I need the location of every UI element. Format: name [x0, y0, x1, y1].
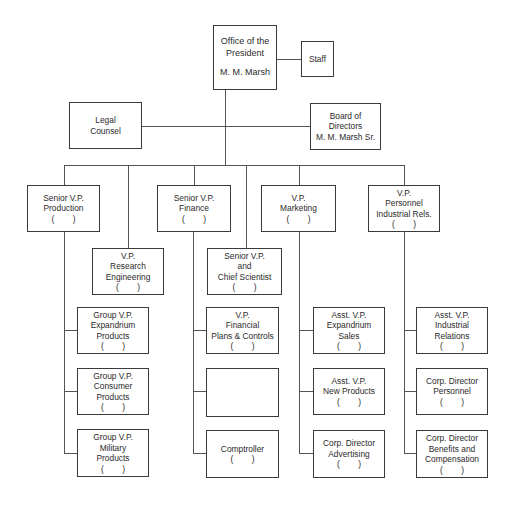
mkt-sub-3-line-2: Advertising	[328, 449, 369, 460]
president-name: M. M. Marsh	[220, 67, 270, 79]
fin-sub-1-line-1: V.P.	[236, 310, 250, 321]
research-line-2: Research	[110, 261, 146, 272]
prod-sub-3-line-1: Group V.P.	[93, 432, 133, 443]
connector-finance-sub-3	[193, 453, 206, 454]
comptroller-box: Comptroller ( )	[206, 430, 279, 478]
research-line-3: Engineering	[106, 272, 151, 283]
board-line-2: Directors	[329, 121, 363, 132]
mkt-sub-1-line-2: Expandrium	[327, 320, 372, 331]
scientist-line-2: and	[238, 261, 252, 272]
per-sub-2-line-1: Corp. Director	[426, 376, 478, 387]
mkt-sub-1-line-3: Sales	[339, 331, 360, 342]
connector-production-rail	[64, 232, 65, 454]
per-sub-3-line-2: Benefits and	[429, 444, 476, 455]
production-placeholder: ( )	[51, 214, 75, 225]
vp-personnel-box: V.P. Personnel Industrial Rels. ( )	[368, 185, 440, 232]
per-sub-2-placeholder: ( )	[440, 397, 464, 408]
per-sub-1-line-1: Asst. V.P.	[435, 310, 470, 321]
prod-sub-2-line-3: Products	[96, 392, 129, 403]
prod-sub-2-line-2: Consumer	[94, 381, 133, 392]
connector-drop-production	[64, 165, 65, 185]
board-line-3: M. M. Marsh Sr.	[316, 132, 375, 143]
chief-scientist-box: Senior V.P. and Chief Scientist ( )	[207, 248, 282, 295]
office-of-president-box: Office of the President M. M. Marsh	[213, 25, 277, 90]
connector-legal-board	[142, 126, 310, 127]
staff-box: Staff	[301, 41, 334, 77]
connector-marketing-sub-1	[299, 330, 313, 331]
asst-vp-new-products-box: Asst. V.P. New Products ( )	[313, 368, 385, 415]
connector-personnel-rail	[404, 232, 405, 454]
research-line-1: V.P.	[121, 251, 135, 262]
connector-drop-personnel	[404, 165, 405, 185]
connector-finance-rail	[193, 232, 194, 454]
fin-sub-1-line-3: Plans & Controls	[211, 331, 273, 342]
per-sub-3-line-3: Compensation	[425, 454, 479, 465]
connector-drop-scientist	[246, 165, 247, 248]
mkt-sub-3-line-1: Corp. Director	[323, 438, 375, 449]
president-title-line-2: President	[226, 48, 264, 60]
connector-main-bar	[64, 165, 405, 166]
corp-director-advertising-box: Corp. Director Advertising ( )	[313, 430, 385, 478]
scientist-placeholder: ( )	[232, 282, 256, 293]
senior-vp-finance-box: Senior V.P. Finance ( )	[157, 185, 231, 232]
connector-finance-sub-1	[193, 330, 206, 331]
fin-sub-3-line-1: Comptroller	[221, 444, 264, 455]
prod-sub-1-line-1: Group V.P.	[93, 310, 133, 321]
scientist-line-1: Senior V.P.	[224, 251, 265, 262]
production-line-2: Production	[43, 203, 83, 214]
prod-sub-2-line-1: Group V.P.	[93, 371, 133, 382]
vp-marketing-box: V.P. Marketing ( )	[261, 185, 336, 232]
research-placeholder: ( )	[116, 282, 140, 293]
prod-sub-1-line-2: Expandrium	[91, 320, 136, 331]
legal-line-1: Legal	[95, 115, 116, 126]
marketing-line-2: Marketing	[280, 203, 317, 214]
connector-personnel-sub-3	[404, 453, 416, 454]
connector-marketing-sub-3	[299, 453, 313, 454]
mkt-sub-2-line-1: Asst. V.P.	[332, 376, 367, 387]
mkt-sub-2-placeholder: ( )	[337, 397, 361, 408]
connector-drop-finance	[194, 165, 195, 185]
connector-production-sub-2	[64, 391, 77, 392]
finance-placeholder: ( )	[182, 214, 206, 225]
group-vp-consumer-products-box: Group V.P. Consumer Products ( )	[77, 368, 149, 415]
corp-director-personnel-box: Corp. Director Personnel ( )	[416, 368, 488, 415]
fin-sub-1-line-2: Financial	[226, 320, 260, 331]
scientist-line-3: Chief Scientist	[218, 272, 272, 283]
asst-vp-expandrium-sales-box: Asst. V.P. Expandrium Sales ( )	[313, 307, 385, 354]
mkt-sub-3-placeholder: ( )	[337, 459, 361, 470]
board-of-directors-box: Board of Directors M. M. Marsh Sr.	[310, 103, 381, 150]
per-sub-1-placeholder: ( )	[440, 341, 464, 352]
mkt-sub-1-placeholder: ( )	[337, 341, 361, 352]
finance-line-2: Finance	[179, 203, 209, 214]
personnel-line-1: V.P.	[397, 188, 411, 199]
connector-personnel-sub-1	[404, 330, 416, 331]
mkt-sub-1-line-1: Asst. V.P.	[332, 310, 367, 321]
finance-line-1: Senior V.P.	[174, 193, 215, 204]
mkt-sub-2-line-2: New Products	[323, 386, 375, 397]
connector-drop-research	[128, 165, 129, 248]
asst-vp-industrial-relations-box: Asst. V.P. Industrial Relations ( )	[416, 307, 488, 354]
production-line-1: Senior V.P.	[43, 193, 84, 204]
vp-financial-plans-controls-box: V.P. Financial Plans & Controls ( )	[206, 307, 279, 354]
per-sub-2-line-2: Personnel	[433, 386, 471, 397]
prod-sub-3-line-2: Military	[100, 443, 127, 454]
connector-marketing-rail	[299, 232, 300, 454]
empty-finance-box	[206, 368, 279, 417]
connector-drop-marketing	[299, 165, 300, 185]
fin-sub-1-placeholder: ( )	[230, 341, 254, 352]
connector-production-sub-3	[64, 453, 77, 454]
connector-finance-sub-2	[193, 391, 206, 392]
senior-vp-production-box: Senior V.P. Production ( )	[27, 185, 100, 232]
per-sub-1-line-2: Industrial	[435, 320, 469, 331]
connector-president-trunk	[225, 90, 226, 166]
connector-marketing-sub-2	[299, 391, 313, 392]
prod-sub-3-placeholder: ( )	[101, 464, 125, 475]
board-line-1: Board of	[330, 111, 362, 122]
legal-counsel-box: Legal Counsel	[69, 102, 142, 149]
per-sub-3-placeholder: ( )	[440, 465, 464, 476]
prod-sub-1-line-3: Products	[96, 331, 129, 342]
legal-line-2: Counsel	[90, 126, 121, 137]
prod-sub-2-placeholder: ( )	[101, 402, 125, 413]
per-sub-3-line-1: Corp. Director	[426, 433, 478, 444]
group-vp-expandrium-products-box: Group V.P. Expandrium Products ( )	[77, 307, 149, 354]
